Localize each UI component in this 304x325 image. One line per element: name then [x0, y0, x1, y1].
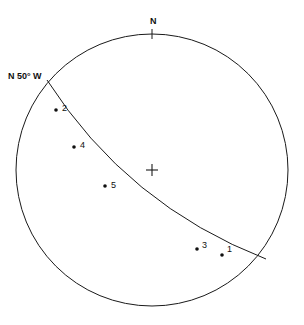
strike-direction-label: N 50° W	[8, 71, 42, 81]
data-point-label-2: 2	[62, 103, 67, 113]
data-point-label-3: 3	[202, 240, 207, 250]
data-point-label-5: 5	[111, 180, 116, 190]
data-point-dot-1	[220, 253, 224, 257]
stereonet-figure: N N 50° W 2 4 5 3 1	[0, 0, 304, 325]
data-point-dot-5	[103, 184, 107, 188]
data-point-label-4: 4	[80, 140, 85, 150]
data-point-dot-2	[54, 108, 58, 112]
data-point-dot-4	[72, 145, 76, 149]
stereonet-svg: N N 50° W 2 4 5 3 1	[0, 0, 304, 325]
north-label: N	[150, 16, 157, 26]
data-point-label-1: 1	[227, 244, 232, 254]
center-cross	[146, 164, 158, 176]
data-point-dot-3	[195, 247, 199, 251]
